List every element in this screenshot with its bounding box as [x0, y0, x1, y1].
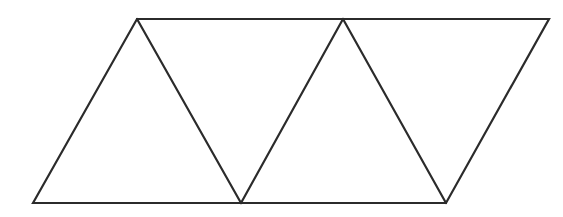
figure-canvas — [0, 0, 563, 217]
geometric-figure — [0, 0, 563, 217]
